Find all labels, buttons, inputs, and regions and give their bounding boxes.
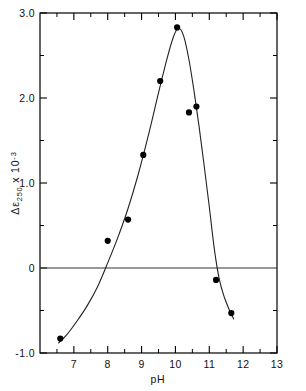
y-axis-title-times: x 10	[9, 160, 21, 187]
data-point	[125, 216, 131, 222]
y-axis-right-major-ticks	[270, 13, 277, 353]
x-tick-label: 12	[237, 358, 249, 370]
x-tick-label: 7	[71, 358, 77, 370]
chart-canvas: 78910111213 -1.001.02.03.0 pH Δε250 x 10…	[0, 0, 306, 391]
y-axis-major-ticks	[40, 13, 47, 353]
x-tick-label: 10	[169, 358, 181, 370]
x-axis-top-major-ticks	[74, 13, 277, 20]
y-tick-label: -1.0	[15, 347, 35, 359]
data-point	[57, 335, 63, 341]
y-tick-label: 0	[29, 262, 35, 274]
x-tick-label: 9	[138, 358, 144, 370]
x-axis-title: pH	[150, 373, 165, 385]
fitted-curve	[59, 28, 234, 343]
y-tick-label: 2.0	[19, 92, 35, 104]
x-axis-tick-labels: 78910111213	[71, 358, 284, 370]
y-axis-title-delta: Δ	[9, 207, 21, 215]
x-tick-label: 8	[105, 358, 111, 370]
data-point	[140, 152, 146, 158]
y-axis-title-subscript: 250	[15, 186, 24, 201]
data-point	[213, 277, 219, 283]
data-point	[228, 310, 234, 316]
data-point	[174, 24, 180, 30]
data-point	[157, 78, 163, 84]
axis-frame	[40, 13, 277, 353]
figure-panel: 78910111213 -1.001.02.03.0 pH Δε250 x 10…	[0, 0, 306, 391]
data-point-series	[57, 24, 234, 341]
x-axis-major-ticks	[74, 346, 277, 353]
x-tick-label: 11	[203, 358, 215, 370]
plot-border	[40, 13, 277, 353]
y-axis-title-exponent: -3	[9, 151, 18, 159]
data-point	[186, 109, 192, 115]
data-point	[193, 103, 199, 109]
x-tick-label: 13	[271, 358, 283, 370]
y-tick-label: 3.0	[19, 7, 35, 19]
data-point	[105, 238, 111, 244]
